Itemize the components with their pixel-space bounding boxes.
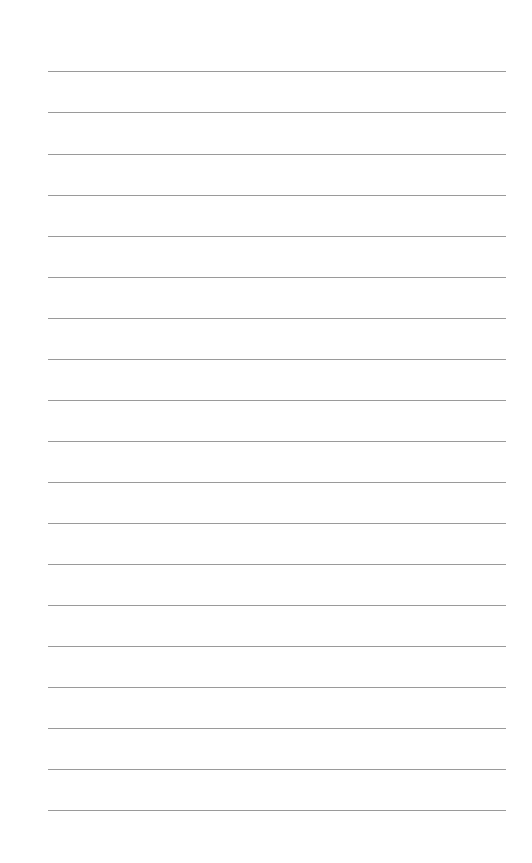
ruled-line (48, 728, 506, 729)
ruled-line (48, 236, 506, 237)
ruled-line (48, 71, 506, 72)
ruled-line (48, 523, 506, 524)
ruled-line (48, 687, 506, 688)
ruled-line (48, 318, 506, 319)
ruled-line (48, 564, 506, 565)
ruled-line (48, 359, 506, 360)
ruled-line (48, 112, 506, 113)
ruled-line (48, 769, 506, 770)
ruled-line (48, 482, 506, 483)
lined-paper-page (0, 0, 532, 863)
ruled-line (48, 646, 506, 647)
ruled-line (48, 195, 506, 196)
ruled-line (48, 441, 506, 442)
ruled-line (48, 605, 506, 606)
ruled-line (48, 154, 506, 155)
ruled-line (48, 400, 506, 401)
ruled-line (48, 810, 506, 811)
ruled-line (48, 277, 506, 278)
